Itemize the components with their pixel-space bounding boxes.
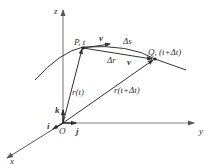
unit-j-label: j	[74, 126, 79, 136]
origin-label: O	[59, 126, 66, 136]
velocity-vector-p	[83, 44, 110, 48]
r-t-label: r(t)	[72, 87, 84, 97]
point-p-label: P, t	[73, 37, 86, 47]
delta-s-label: Δs	[122, 36, 132, 46]
velocity-p-label: v	[99, 33, 104, 43]
r-t-dt-label: r(t+Δt)	[114, 85, 140, 95]
y-axis-label: y	[198, 126, 203, 136]
x-axis-label: x	[9, 156, 14, 164]
kinematics-diagram: z y x O i j k P, t Q, (t+Δt) r(t) r(t+Δt…	[0, 0, 218, 164]
point-q-label: Q, (t+Δt)	[148, 47, 181, 57]
unit-k-label: k	[55, 105, 60, 115]
z-axis-label: z	[53, 6, 58, 16]
delta-r-label: Δr	[106, 55, 116, 65]
velocity-q-label: v	[127, 57, 132, 67]
point-q	[153, 57, 156, 60]
unit-i-label: i	[47, 121, 50, 131]
vector-delta-r	[83, 48, 152, 59]
